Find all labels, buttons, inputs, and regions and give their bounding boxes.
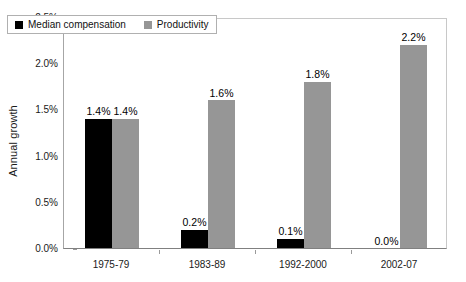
bar-value-label: 2.2% — [402, 32, 426, 43]
y-axis-tick-labels: 0.0%0.5%1.0%1.5%2.0%2.5% — [14, 0, 58, 282]
bars-layer: 1.4%1.4%0.2%1.6%0.1%1.8%0.0%2.2% — [64, 19, 446, 248]
bar-value-label: 0.1% — [279, 226, 303, 237]
bar-productivity-1983-89 — [208, 100, 235, 248]
y-axis-tick-label: 2.0% — [14, 59, 58, 69]
legend-item-2[interactable]: Productivity — [144, 20, 209, 30]
square-marker-icon — [15, 21, 23, 29]
bar-value-label: 1.6% — [210, 88, 234, 99]
bar-median-compensation-1992-2000 — [277, 239, 304, 248]
legend-item-label: Median compensation — [28, 20, 126, 30]
x-axis-tick-label: 2002-07 — [381, 259, 418, 270]
square-marker-icon — [144, 21, 152, 29]
bar-productivity-1992-2000 — [304, 82, 331, 248]
bar-productivity-2002-07 — [400, 45, 427, 248]
y-axis-tick-label: 0.5% — [14, 198, 58, 208]
y-axis-tick-label: 1.0% — [14, 152, 58, 162]
bar-value-label: 1.4% — [87, 106, 111, 117]
bar-median-compensation-1975-79 — [85, 119, 112, 248]
bar-median-compensation-1983-89 — [181, 230, 208, 248]
bar-value-label: 0.2% — [183, 217, 207, 228]
x-axis-tick-mark — [351, 250, 352, 254]
bar-value-label: 0.0% — [375, 236, 399, 247]
y-axis-tick-label: 0.0% — [14, 244, 58, 254]
chart-legend: Median compensationProductivity — [7, 15, 217, 34]
x-axis-tick-label: 1992-2000 — [279, 259, 327, 270]
y-axis-tick-label: 1.5% — [14, 105, 58, 115]
x-axis-tick-label: 1975-79 — [93, 259, 130, 270]
x-axis: 1975-791983-891992-20002002-07 — [63, 250, 447, 280]
plot-area: 1.4%1.4%0.2%1.6%0.1%1.8%0.0%2.2% — [63, 18, 447, 249]
bar-value-label: 1.4% — [114, 106, 138, 117]
legend-item-1[interactable]: Median compensation — [15, 20, 126, 30]
x-axis-tick-mark — [255, 250, 256, 254]
legend-item-label: Productivity — [157, 20, 209, 30]
x-axis-tick-mark — [159, 250, 160, 254]
bar-productivity-1975-79 — [112, 119, 139, 248]
x-axis-tick-label: 1983-89 — [189, 259, 226, 270]
bar-chart: Annual growth 0.0%0.5%1.0%1.5%2.0%2.5% 1… — [0, 0, 466, 282]
bar-value-label: 1.8% — [306, 69, 330, 80]
